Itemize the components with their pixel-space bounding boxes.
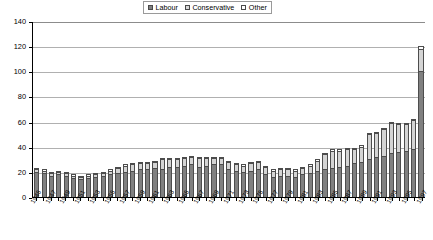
bar-group	[395, 22, 402, 197]
x-axis-label-slot: 1991	[373, 201, 380, 235]
stacked-bar	[411, 119, 416, 197]
bar-group	[329, 22, 336, 197]
bar-group	[225, 22, 232, 197]
stacked-bar	[418, 46, 423, 197]
x-axis-label-slot: 1983	[314, 201, 321, 235]
stacked-bar	[86, 174, 91, 197]
y-axis-tick-label: 40	[2, 144, 26, 152]
x-axis-label-slot: 1961	[151, 201, 158, 235]
bar-segment-labour	[278, 176, 283, 197]
bar-segment-labour	[418, 71, 423, 197]
bar-segment-labour	[411, 149, 416, 197]
x-axis-label-slot: 1957	[121, 201, 128, 235]
bar-group	[336, 22, 343, 197]
stacked-bar	[56, 171, 61, 197]
bar-group	[203, 22, 210, 197]
stacked-bar	[42, 169, 47, 197]
x-axis-label-slot: 1945	[32, 201, 39, 235]
bar-group	[33, 22, 40, 197]
y-axis-tick-label: 100	[2, 68, 26, 76]
x-axis-label-slot: 1969	[210, 201, 217, 235]
stacked-bar	[352, 148, 357, 197]
x-axis-label-slot	[336, 201, 343, 235]
bar-segment-conservative	[352, 149, 357, 163]
bar-group	[314, 22, 321, 197]
x-axis-label-slot	[128, 201, 135, 235]
bar-group	[40, 22, 47, 197]
bar-segment-conservative	[248, 163, 253, 171]
stacked-bar	[71, 174, 76, 197]
chart-root: Labour Conservative Other 02040608010012…	[0, 0, 433, 240]
bar-segment-conservative	[175, 159, 180, 167]
x-axis-label-slot: 1985	[329, 201, 336, 235]
bar-segment-conservative	[197, 158, 202, 167]
x-axis-label-slot: 1947	[47, 201, 54, 235]
bar-segment-conservative	[322, 154, 327, 169]
x-axis-label-slot: 1959	[136, 201, 143, 235]
bar-group	[366, 22, 373, 197]
bar-group	[255, 22, 262, 197]
bar-segment-labour	[160, 169, 165, 197]
bar-group	[100, 22, 107, 197]
bar-segment-conservative	[381, 129, 386, 155]
x-axis-label-slot: 1979	[284, 201, 291, 235]
stacked-bar	[337, 149, 342, 197]
x-axis-label-slot: 1951	[77, 201, 84, 235]
x-axis-label-slot: 1971	[225, 201, 232, 235]
legend-label-labour: Labour	[156, 3, 178, 12]
legend-swatch-labour-icon	[148, 5, 153, 10]
bar-group	[277, 22, 284, 197]
bar-group	[351, 22, 358, 197]
x-axis-label-slot	[351, 201, 358, 235]
bar-segment-labour	[115, 173, 120, 197]
x-axis-label-slot: 1955	[106, 201, 113, 235]
stacked-bar	[367, 133, 372, 197]
plot-area	[32, 22, 425, 198]
bar-group	[159, 22, 166, 197]
bar-segment-conservative	[337, 151, 342, 167]
x-axis-label-slot: 1953	[91, 201, 98, 235]
bar-segment-labour	[42, 173, 47, 197]
x-axis-label-slot: 1949	[62, 201, 69, 235]
stacked-bar	[115, 167, 120, 197]
bar-segment-conservative	[359, 147, 364, 162]
x-axis-label-slot	[114, 201, 121, 235]
bar-group	[144, 22, 151, 197]
bar-segment-conservative	[418, 49, 423, 72]
bar-group	[306, 22, 313, 197]
bar-segment-labour	[101, 176, 106, 197]
bar-segment-labour	[263, 174, 268, 197]
bar-segment-labour	[145, 169, 150, 197]
bar-segment-conservative	[345, 149, 350, 165]
x-axis-label-slot	[247, 201, 254, 235]
bar-segment-conservative	[367, 134, 372, 159]
bar-segment-conservative	[226, 162, 231, 170]
bar-group	[48, 22, 55, 197]
bar-group	[136, 22, 143, 197]
x-axis-label-slot	[39, 201, 46, 235]
legend-item-conservative: Conservative	[185, 3, 234, 12]
y-axis-tick-label: 80	[2, 93, 26, 101]
bar-group	[233, 22, 240, 197]
bar-group	[114, 22, 121, 197]
stacked-bar	[101, 172, 106, 197]
x-axis-label-slot: 1963	[166, 201, 173, 235]
x-axis-label-slot	[203, 201, 210, 235]
bar-group	[292, 22, 299, 197]
bar-group	[151, 22, 158, 197]
chart-legend: Labour Conservative Other	[143, 1, 272, 14]
x-axis-labels: 1945194719491951195319551957195919611963…	[32, 201, 425, 235]
x-axis-label-slot: 1997	[418, 201, 425, 235]
x-axis-label-slot	[69, 201, 76, 235]
bar-group	[77, 22, 84, 197]
bar-group	[166, 22, 173, 197]
stacked-bar	[189, 156, 194, 197]
x-axis-label-slot: 1975	[255, 201, 262, 235]
bar-group	[63, 22, 70, 197]
bar-segment-conservative	[160, 159, 165, 169]
bar-segment-conservative	[204, 158, 209, 166]
x-axis-label-slot: 1993	[388, 201, 395, 235]
bar-group	[181, 22, 188, 197]
x-axis-label-slot	[411, 201, 418, 235]
x-axis-label-slot	[366, 201, 373, 235]
